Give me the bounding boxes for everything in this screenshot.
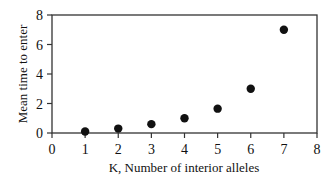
x-tick-label: 5 xyxy=(214,142,221,157)
data-point xyxy=(280,26,288,34)
y-tick-label: 2 xyxy=(36,97,43,112)
y-axis-label: Mean time to enter xyxy=(15,24,30,123)
x-tick-label: 3 xyxy=(148,142,155,157)
y-tick-label: 0 xyxy=(36,126,43,141)
x-tick-label: 0 xyxy=(49,142,56,157)
data-point xyxy=(180,114,188,122)
data-point xyxy=(147,120,155,128)
y-axis-ticks: 02468 xyxy=(36,8,52,141)
x-axis-label: K, Number of interior alleles xyxy=(109,160,260,175)
data-point xyxy=(114,124,122,132)
x-tick-label: 2 xyxy=(115,142,122,157)
y-tick-label: 8 xyxy=(36,8,43,23)
data-point xyxy=(81,127,89,135)
x-tick-label: 8 xyxy=(314,142,321,157)
scatter-chart: 02468 012345678 K, Number of interior al… xyxy=(0,0,335,183)
y-tick-label: 4 xyxy=(36,67,43,82)
data-points xyxy=(81,26,288,136)
x-tick-label: 7 xyxy=(280,142,287,157)
y-tick-label: 6 xyxy=(36,38,43,53)
data-point xyxy=(213,104,221,112)
x-tick-label: 1 xyxy=(82,142,89,157)
x-axis-ticks: 012345678 xyxy=(49,133,321,157)
x-tick-label: 6 xyxy=(247,142,254,157)
data-point xyxy=(247,85,255,93)
x-tick-label: 4 xyxy=(181,142,188,157)
